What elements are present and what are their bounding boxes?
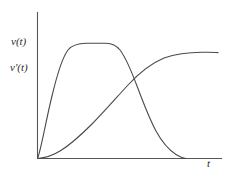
curve-v-of-t [38, 43, 187, 158]
curve-v-prime-of-t [38, 52, 219, 158]
figure-container: v(t) v'(t) t [0, 0, 233, 174]
x-axis-label-t: t [207, 158, 210, 169]
plot-area [0, 0, 233, 174]
y-axis-label-v-prime: v'(t) [10, 62, 28, 73]
y-axis-label-v: v(t) [11, 36, 26, 47]
